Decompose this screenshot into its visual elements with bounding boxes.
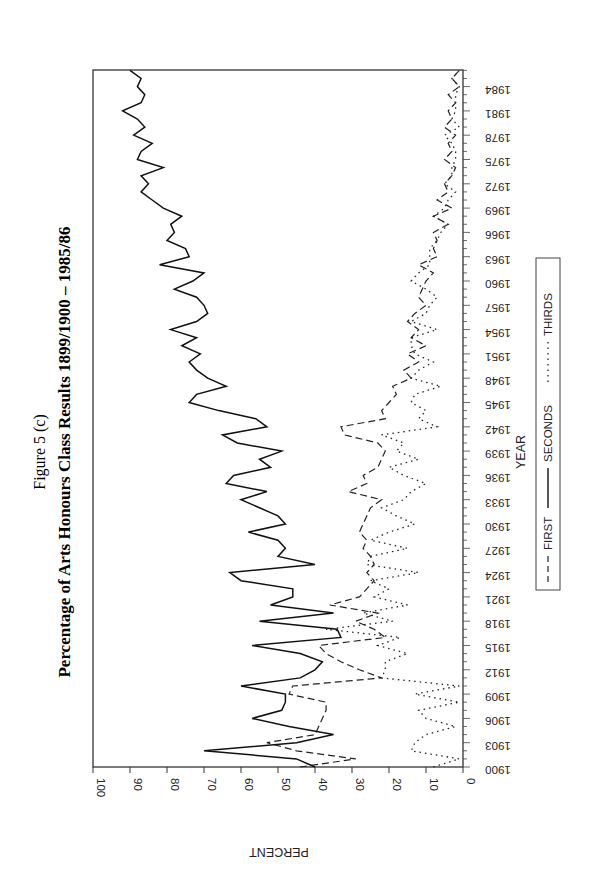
year-tick-label: 1906 — [485, 715, 511, 727]
year-tick-label: 1963 — [485, 254, 511, 266]
series-group — [123, 70, 460, 767]
year-tick-label: 1909 — [485, 691, 511, 703]
year-tick-label: 1984 — [485, 84, 511, 96]
year-tick-label: 1924 — [485, 570, 511, 582]
x-axis-title: YEAR — [514, 435, 528, 469]
year-tick-label: 1972 — [485, 181, 511, 193]
series-seconds-line — [123, 70, 341, 767]
year-tick-label: 1915 — [485, 642, 511, 654]
percent-tick-label: 10 — [428, 778, 440, 791]
plot-frame — [93, 70, 463, 767]
year-tick-label: 1978 — [485, 132, 511, 144]
year-tick-label: 1918 — [485, 618, 511, 630]
figure-label: Figure 5 (c) — [31, 414, 49, 490]
year-tick-label: 1945 — [485, 399, 511, 411]
percent-tick-label: 0 — [465, 778, 477, 784]
year-axis: 1900190319061909191219151918192119241927… — [463, 70, 511, 776]
year-tick-label: 1939 — [485, 448, 511, 460]
year-tick-label: 1921 — [485, 594, 511, 606]
percent-tick-label: 30 — [354, 778, 366, 791]
year-tick-label: 1942 — [485, 424, 511, 436]
figure-page: Figure 5 (c) Percentage of Arts Honours … — [0, 0, 608, 895]
legend-seconds-label: SECONDS — [542, 405, 554, 462]
chart-title: Percentage of Arts Honours Class Results… — [55, 226, 74, 677]
year-tick-label: 1948 — [485, 375, 511, 387]
year-tick-label: 1966 — [485, 229, 511, 241]
percent-axis: 0102030405060708090100 — [93, 767, 477, 797]
percent-tick-label: 80 — [169, 778, 181, 791]
year-tick-label: 1969 — [485, 205, 511, 217]
year-tick-label: 1903 — [485, 740, 511, 752]
y-axis-title: PERCENT — [249, 845, 309, 859]
year-tick-label: 1960 — [485, 278, 511, 290]
year-tick-label: 1954 — [485, 327, 511, 339]
year-tick-label: 1912 — [485, 667, 511, 679]
percent-tick-label: 90 — [132, 778, 144, 791]
year-tick-label: 1975 — [485, 156, 511, 168]
year-tick-label: 1930 — [485, 521, 511, 533]
year-tick-label: 1900 — [485, 764, 511, 776]
year-tick-label: 1933 — [485, 497, 511, 509]
percent-tick-label: 70 — [206, 778, 218, 791]
year-tick-label: 1957 — [485, 302, 511, 314]
year-tick-label: 1927 — [485, 545, 511, 557]
percent-tick-label: 100 — [95, 778, 107, 797]
year-tick-label: 1981 — [485, 108, 511, 120]
percent-tick-label: 40 — [317, 778, 329, 791]
percent-tick-label: 20 — [391, 778, 403, 791]
series-thirds-line — [326, 70, 459, 767]
legend-first-label: FIRST — [542, 517, 554, 550]
legend: FIRST SECONDS THIRDS — [536, 258, 560, 590]
year-tick-label: 1951 — [485, 351, 511, 363]
legend-thirds-label: THIRDS — [542, 293, 554, 336]
chart: Figure 5 (c) Percentage of Arts Honours … — [0, 0, 608, 895]
percent-tick-label: 50 — [280, 778, 292, 791]
series-first-line — [267, 70, 459, 767]
year-tick-label: 1936 — [485, 472, 511, 484]
percent-tick-label: 60 — [243, 778, 255, 791]
